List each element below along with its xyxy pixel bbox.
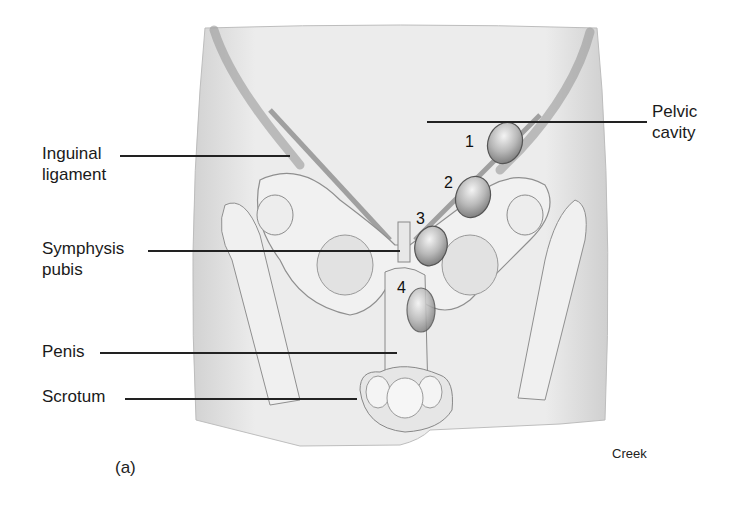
- leader-symphysis: [148, 250, 400, 252]
- label-symphysis-pubis: Symphysis pubis: [42, 238, 124, 280]
- marker-1: 1: [465, 133, 474, 151]
- label-penis: Penis: [42, 341, 85, 362]
- marker-4: 4: [397, 279, 406, 297]
- marker-3: 3: [416, 210, 425, 228]
- label-inguinal-ligament: Inguinal ligament: [42, 143, 106, 185]
- marker-oval-4: [407, 288, 435, 332]
- leader-penis: [100, 352, 397, 354]
- label-scrotum: Scrotum: [42, 386, 105, 407]
- leader-pelvic-cavity: [427, 121, 647, 123]
- leader-inguinal: [120, 155, 290, 157]
- illustrator-credit: Creek: [612, 446, 647, 461]
- marker-2: 2: [444, 174, 453, 192]
- label-pelvic-cavity: Pelvic cavity: [652, 101, 697, 143]
- leader-scrotum: [125, 398, 357, 400]
- panel-label: (a): [115, 458, 136, 478]
